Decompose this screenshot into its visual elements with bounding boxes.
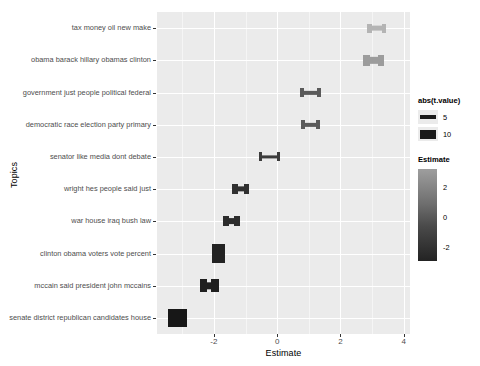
error-bar [367,24,386,33]
error-bar [363,55,384,66]
x-axis-tick-mark [214,334,215,337]
chart-root: Topics Estimate abs(t.value) 510 Estimat… [0,0,480,366]
colorbar-tick-label: 0 [443,213,447,222]
error-bar-cap-right [244,184,249,193]
y-axis-tick-mark [153,254,156,255]
legend-area: abs(t.value) 510 Estimate 20-2 [418,96,480,261]
y-axis-tick-label: obama barack hillary obamas clinton [0,55,151,64]
y-axis-tick-label: mccain said president john mccains [0,281,151,290]
y-axis-tick-mark [153,189,156,190]
legend-abs-t-value-title: abs(t.value) [418,96,480,105]
y-axis-tick-label: government just people political federal [0,88,151,97]
legend-key-swatch [418,127,438,141]
y-axis-tick-mark [153,60,156,61]
error-bar [168,309,187,326]
error-bar-cap-right [214,244,225,263]
gridline-major-horizontal [157,189,410,190]
legend-estimate: Estimate 20-2 [418,155,480,261]
y-axis-tick-mark [153,93,156,94]
error-bar-cap-left [363,55,369,66]
y-axis-tick-mark [153,318,156,319]
y-axis-tick-mark [153,28,156,29]
x-axis-title: Estimate [157,348,410,358]
x-axis-tick-label: 4 [391,337,417,346]
legend-abs-t-value: abs(t.value) 510 [418,96,480,141]
error-bar-cap-right [211,279,218,292]
error-bar [259,152,280,161]
y-axis-tick-label: senate district republican candidates ho… [0,313,151,322]
y-axis-tick-label: tax money oil new make [0,23,151,32]
y-axis-tick-mark [153,125,156,126]
error-bar-cap-left [301,120,305,129]
x-axis-tick-mark [340,334,341,337]
error-bar [232,184,249,193]
error-bar [223,216,240,226]
x-axis-tick-mark [277,334,278,337]
error-bar-cap-right [177,309,187,326]
error-bar-cap-right [378,55,384,66]
error-bar-cap-right [316,120,320,129]
error-bar-cap-left [300,88,304,97]
gridline-major-horizontal [157,221,410,222]
colorbar-tick-label: -2 [443,243,450,252]
gridline-major-horizontal [157,254,410,255]
gridline-major-horizontal [157,286,410,287]
legend-item-label: 10 [443,130,451,139]
estimate-colorbar [418,169,437,261]
gridline-major-horizontal [157,93,410,94]
error-bar-cap-right [277,152,280,161]
x-axis-tick-label: -2 [201,337,227,346]
error-bar-cap-left [259,152,262,161]
error-bar [301,120,321,129]
error-bar-cap-left [232,184,237,193]
y-axis-tick-label: senator like media dont debate [0,152,151,161]
error-bar [200,279,219,292]
y-axis-tick-label: war house iraq bush law [0,216,151,225]
y-axis-tick-label: wright hes people said just [0,184,151,193]
error-bar [212,244,225,263]
error-bar [300,88,321,97]
gridline-major-horizontal [157,157,410,158]
legend-item[interactable]: 5 [418,110,480,124]
error-bar-cap-right [317,88,321,97]
y-axis-tick-label: clinton obama voters vote percent [0,249,151,258]
legend-key-swatch [418,110,438,124]
estimate-colorbar-ticks: 20-2 [437,169,469,261]
legend-estimate-title: Estimate [418,155,480,164]
legend-item[interactable]: 10 [418,127,480,141]
x-axis-tick-mark [404,334,405,337]
error-bar-cap-left [200,279,207,292]
y-axis-tick-mark [153,286,156,287]
colorbar-tick-label: 2 [443,183,447,192]
gridline-major-horizontal [157,125,410,126]
x-axis-tick-label: 2 [327,337,353,346]
y-axis-tick-mark [153,221,156,222]
error-bar-cap-left [223,216,229,226]
error-bar-cap-right [234,216,240,226]
error-bar-cap-left [367,24,372,33]
gridline-major-horizontal [157,318,410,319]
x-axis-tick-label: 0 [264,337,290,346]
legend-item-label: 5 [443,113,447,122]
error-bar-cap-right [382,24,387,33]
y-axis-tick-mark [153,157,156,158]
y-axis-tick-label: democratic race election party primary [0,120,151,129]
